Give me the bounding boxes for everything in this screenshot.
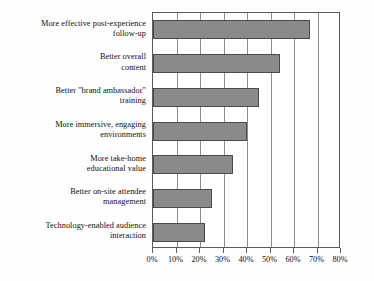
- category-label: More immersive, engagingenvironments: [0, 120, 146, 140]
- tickmark: [317, 248, 318, 253]
- x-tick-label: 40%: [238, 254, 253, 265]
- x-tick-label: 50%: [262, 254, 277, 265]
- gridline-50pct: [271, 13, 272, 247]
- gridline-40pct: [247, 13, 248, 247]
- bar: [153, 54, 280, 73]
- tickmark: [176, 248, 177, 253]
- x-tick-label: 70%: [309, 254, 324, 265]
- x-tick-label: 20%: [191, 254, 206, 265]
- tickmark: [246, 248, 247, 253]
- category-label-line: More immersive, engaging: [0, 120, 146, 130]
- category-label-line: Better on-site attendee: [0, 187, 146, 197]
- category-label: Better on-site attendeemanagement: [0, 187, 146, 207]
- bar: [153, 88, 259, 107]
- tickmark: [199, 248, 200, 253]
- category-label: More effective post-experiencefollow-up: [0, 19, 146, 39]
- bar: [153, 155, 233, 174]
- gridline-60pct: [294, 13, 295, 247]
- category-label-line: follow-up: [0, 29, 146, 39]
- category-label-line: Better overall: [0, 52, 146, 62]
- bar: [153, 20, 310, 39]
- tickmark: [270, 248, 271, 253]
- tickmark: [152, 248, 153, 253]
- category-label: Technology-enabled audienceinteraction: [0, 221, 146, 241]
- tickmark: [223, 248, 224, 253]
- bar: [153, 189, 212, 208]
- category-label: More take-homeeducational value: [0, 154, 146, 174]
- bar-chart: More effective post-experiencefollow-upB…: [0, 0, 374, 281]
- category-label-line: educational value: [0, 164, 146, 174]
- category-label-line: More effective post-experience: [0, 19, 146, 29]
- x-tick-label: 60%: [285, 254, 300, 265]
- category-label-line: management: [0, 197, 146, 207]
- x-tick-label: 0%: [147, 254, 158, 265]
- category-axis-labels: More effective post-experiencefollow-upB…: [0, 12, 150, 248]
- bar: [153, 223, 205, 242]
- category-label-line: content: [0, 63, 146, 73]
- gridline-70pct: [318, 13, 319, 247]
- category-label-line: Technology-enabled audience: [0, 221, 146, 231]
- category-label: Better "brand ambassador"training: [0, 86, 146, 106]
- x-axis-tick-labels: 0%10%20%30%40%50%60%70%80%: [152, 254, 340, 268]
- plot-area: [152, 12, 340, 248]
- category-label: Better overallcontent: [0, 52, 146, 72]
- category-label-line: Better "brand ambassador": [0, 86, 146, 96]
- category-label-line: environments: [0, 130, 146, 140]
- bar: [153, 122, 247, 141]
- tickmark: [340, 248, 341, 253]
- category-label-line: interaction: [0, 231, 146, 241]
- category-label-line: training: [0, 96, 146, 106]
- x-tick-label: 30%: [215, 254, 230, 265]
- x-tick-label: 80%: [332, 254, 347, 265]
- tickmark: [293, 248, 294, 253]
- category-label-line: More take-home: [0, 154, 146, 164]
- x-tick-label: 10%: [168, 254, 183, 265]
